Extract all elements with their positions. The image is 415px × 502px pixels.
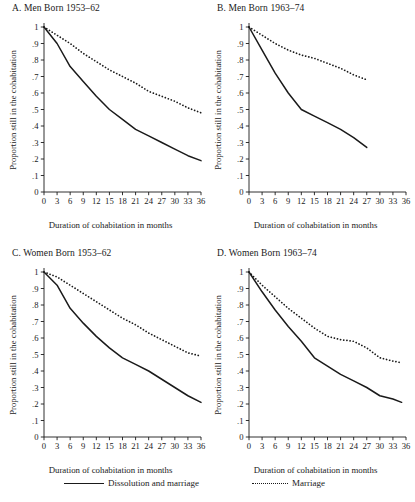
x-tick-label: 12	[92, 441, 101, 451]
y-tick-label: 0	[239, 187, 243, 197]
panel-b-plot: 0.1.2.3.4.5.6.7.8.9103691215182124273033…	[205, 0, 412, 220]
x-tick-label: 6	[273, 196, 278, 206]
x-tick-label: 21	[131, 196, 140, 206]
x-tick-label: 3	[260, 196, 264, 206]
panel-b-x-axis-label: Duration of cohabitation in months	[223, 220, 408, 230]
y-tick-label: .9	[32, 284, 38, 294]
dissolution-and-marriage-curve	[44, 272, 201, 402]
x-tick-label: 33	[184, 441, 193, 451]
y-tick-label: .1	[237, 416, 243, 426]
x-tick-label: 9	[81, 196, 85, 206]
y-tick-label: .9	[32, 39, 38, 49]
axis-lines	[249, 23, 406, 192]
x-tick-label: 24	[144, 441, 153, 451]
y-tick-label: .4	[32, 121, 39, 131]
x-tick-label: 18	[323, 196, 332, 206]
x-tick-label: 30	[376, 441, 385, 451]
panel-a-x-axis-label: Duration of cohabitation in months	[18, 220, 203, 230]
y-tick-label: .4	[237, 121, 244, 131]
dissolution-and-marriage-curve	[44, 27, 201, 161]
panel-a-plot: 0.1.2.3.4.5.6.7.8.9103691215182124273033…	[0, 0, 207, 220]
x-tick-label: 30	[376, 196, 385, 206]
y-tick-label: .3	[32, 383, 38, 393]
x-tick-label: 6	[68, 441, 73, 451]
x-tick-label: 12	[92, 196, 101, 206]
y-tick-label: .2	[32, 154, 38, 164]
y-tick-label: 0	[239, 432, 243, 442]
x-tick-label: 3	[55, 196, 59, 206]
x-tick-label: 27	[157, 196, 166, 206]
panel-c: C. Women Born 1953–62 Proportion still i…	[0, 245, 207, 490]
x-tick-label: 15	[310, 441, 319, 451]
y-tick-label: .5	[237, 105, 243, 115]
y-tick-label: .3	[237, 138, 243, 148]
x-tick-label: 0	[42, 196, 46, 206]
axis-lines	[44, 268, 201, 437]
y-tick-label: .4	[237, 366, 244, 376]
x-tick-label: 27	[362, 196, 371, 206]
marriage-curve	[249, 272, 402, 363]
y-tick-label: 1	[34, 267, 38, 277]
x-tick-label: 12	[297, 196, 306, 206]
x-tick-label: 3	[55, 441, 59, 451]
x-tick-label: 36	[402, 196, 411, 206]
panel-d-plot: 0.1.2.3.4.5.6.7.8.9103691215182124273033…	[205, 245, 412, 465]
x-tick-label: 6	[273, 441, 278, 451]
x-tick-label: 18	[118, 441, 127, 451]
x-tick-label: 33	[389, 441, 398, 451]
y-tick-label: .7	[237, 72, 244, 82]
y-tick-label: .1	[32, 171, 38, 181]
marriage-curve	[249, 27, 367, 80]
x-tick-label: 6	[68, 196, 73, 206]
axis-lines	[44, 23, 201, 192]
y-tick-label: .6	[32, 88, 39, 98]
legend-label-marriage: Marriage	[292, 478, 325, 488]
y-tick-label: .6	[237, 88, 244, 98]
y-tick-label: .2	[237, 399, 243, 409]
x-tick-label: 24	[349, 441, 358, 451]
x-tick-label: 9	[81, 441, 85, 451]
panel-d: D. Women Born 1963–74 Proportion still i…	[205, 245, 412, 490]
x-tick-label: 30	[171, 441, 180, 451]
x-tick-label: 0	[247, 196, 251, 206]
y-tick-label: 1	[239, 267, 243, 277]
x-tick-label: 3	[260, 441, 264, 451]
x-tick-label: 21	[131, 441, 140, 451]
y-tick-label: .8	[32, 55, 38, 65]
x-tick-label: 30	[171, 196, 180, 206]
y-tick-label: .6	[32, 333, 39, 343]
x-tick-label: 27	[362, 441, 371, 451]
y-tick-label: .8	[237, 55, 243, 65]
x-tick-label: 15	[105, 196, 114, 206]
x-tick-label: 0	[247, 441, 251, 451]
x-tick-label: 9	[286, 196, 290, 206]
x-tick-label: 18	[323, 441, 332, 451]
y-tick-label: .1	[32, 416, 38, 426]
x-tick-label: 12	[297, 441, 306, 451]
y-tick-label: .6	[237, 333, 244, 343]
y-tick-label: .1	[237, 171, 243, 181]
legend-solid-line-swatch	[64, 483, 104, 484]
panel-b: B. Men Born 1963–74 Proportion still in …	[205, 0, 412, 245]
x-tick-label: 24	[349, 196, 358, 206]
x-tick-label: 15	[105, 441, 114, 451]
dissolution-and-marriage-curve	[249, 27, 367, 147]
y-tick-label: .9	[237, 39, 243, 49]
marriage-curve	[44, 272, 201, 356]
y-tick-label: .8	[237, 300, 243, 310]
y-tick-label: .5	[237, 350, 243, 360]
y-tick-label: .3	[32, 138, 38, 148]
y-tick-label: .3	[237, 383, 243, 393]
marriage-curve	[44, 27, 201, 113]
y-tick-label: 0	[34, 432, 38, 442]
x-tick-label: 33	[184, 196, 193, 206]
x-tick-label: 24	[144, 196, 153, 206]
x-tick-label: 15	[310, 196, 319, 206]
legend-label-dissolution-and-marriage: Dissolution and marriage	[108, 478, 199, 488]
x-tick-label: 0	[42, 441, 46, 451]
x-tick-label: 33	[389, 196, 398, 206]
y-tick-label: .7	[32, 317, 39, 327]
panel-c-plot: 0.1.2.3.4.5.6.7.8.9103691215182124273033…	[0, 245, 207, 465]
y-tick-label: .5	[32, 350, 38, 360]
y-tick-label: .9	[237, 284, 243, 294]
